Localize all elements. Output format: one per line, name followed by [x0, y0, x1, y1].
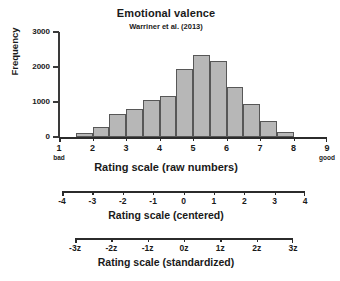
x-tick-mark [294, 137, 295, 141]
histogram-bar [193, 55, 210, 137]
x-standardized-label: 2z [244, 243, 270, 253]
x-centered-label: -4 [50, 196, 74, 206]
x-tick-mark [260, 137, 261, 141]
x-standardized-tick [184, 238, 185, 242]
x-standardized-label: -3z [62, 243, 88, 253]
x-axis-raw-cap [326, 137, 328, 142]
x-centered-tick [92, 191, 93, 195]
histogram-bar [109, 114, 126, 137]
x-centered-label: -1 [141, 196, 165, 206]
x-standardized-tick [257, 238, 258, 242]
histogram-bar [227, 87, 244, 137]
y-tick-label: 3000 [0, 27, 50, 36]
x-tick-label: 6 [215, 143, 239, 153]
x-centered-label: 2 [232, 196, 256, 206]
histogram-bar [243, 104, 260, 137]
x-centered-label: 0 [172, 196, 196, 206]
x-axis-centered-title: Rating scale (centered) [0, 209, 332, 221]
x-centered-label: 3 [263, 196, 287, 206]
x-tick-mark [227, 137, 228, 141]
x-tick-mark [193, 137, 194, 141]
histogram-bar [143, 100, 160, 137]
x-axis-standardized-title: Rating scale (standardized) [0, 256, 332, 268]
histogram-bar [126, 109, 143, 137]
x-centered-tick [214, 191, 215, 195]
y-axis-label: Frequency [9, 7, 20, 97]
x-axis-raw-cap [59, 137, 61, 142]
x-centered-tick [275, 191, 276, 195]
x-tick-mark [160, 137, 161, 141]
x-standardized-label: -1z [135, 243, 161, 253]
x-centered-label: 4 [293, 196, 317, 206]
histogram-bar [93, 127, 110, 137]
x-tick-label: 5 [181, 143, 205, 153]
x-tick-label: 9 [315, 143, 339, 153]
x-standardized-tick [220, 238, 221, 242]
x-centered-label: -3 [80, 196, 104, 206]
x-centered-tick [153, 191, 154, 195]
x-tick-mark [93, 137, 94, 141]
y-tick-label: 2000 [0, 62, 50, 71]
x-centered-label: -2 [111, 196, 135, 206]
y-tick-label: 0 [0, 132, 50, 141]
y-tick-label: 1000 [0, 97, 50, 106]
histogram-bar [210, 61, 227, 137]
histogram-bars [59, 32, 327, 137]
x-centered-tick [244, 191, 245, 195]
x-centered-tick [123, 191, 124, 195]
x-tick-label: 4 [148, 143, 172, 153]
x-standardized-label: 3z [280, 243, 306, 253]
histogram-bar [176, 69, 193, 137]
x-tick-label: 3 [114, 143, 138, 153]
anchor-label-high: good [312, 154, 340, 161]
histogram-bar [160, 96, 177, 137]
x-standardized-tick [111, 238, 112, 242]
x-standardized-label: -2z [98, 243, 124, 253]
chart-title: Emotional valence [0, 7, 332, 19]
x-tick-label: 8 [282, 143, 306, 153]
x-standardized-label: 0z [171, 243, 197, 253]
x-axis-raw-title: Rating scale (raw numbers) [0, 161, 332, 173]
x-centered-label: 1 [202, 196, 226, 206]
anchor-label-low: bad [44, 154, 74, 161]
x-tick-label: 2 [81, 143, 105, 153]
x-tick-mark [126, 137, 127, 141]
histogram-bar [260, 121, 277, 137]
x-standardized-tick [148, 238, 149, 242]
x-centered-tick [184, 191, 185, 195]
x-tick-label: 1 [47, 143, 71, 153]
x-tick-label: 7 [248, 143, 272, 153]
x-standardized-label: 1z [207, 243, 233, 253]
